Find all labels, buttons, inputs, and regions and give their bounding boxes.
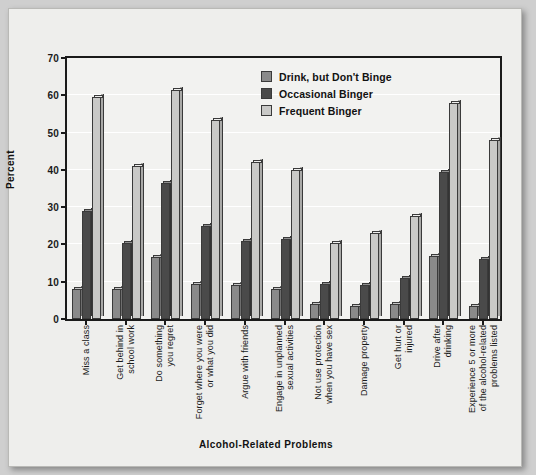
- y-axis: 010203040506070: [9, 9, 65, 329]
- bar-face: [112, 289, 121, 319]
- bar-side: [101, 94, 104, 316]
- legend-label: Occasional Binger: [279, 88, 373, 100]
- legend: Drink, but Don't BingeOccasional BingerF…: [257, 67, 396, 122]
- bar: [251, 162, 260, 319]
- bar-side: [458, 100, 461, 316]
- x-axis-category-text: Do something you regret: [154, 325, 176, 445]
- bar-face: [92, 97, 101, 319]
- legend-swatch: [261, 71, 272, 82]
- y-axis-tick-label: 30: [47, 202, 59, 213]
- bar-face: [410, 216, 419, 319]
- bar-face: [72, 289, 81, 319]
- y-axis-tick-label: 50: [47, 127, 59, 138]
- bar-side: [419, 213, 422, 316]
- bar-face: [241, 241, 250, 319]
- x-axis-category-text: Get hurt or injured: [393, 325, 415, 445]
- bar-face: [82, 211, 91, 319]
- bar: [231, 285, 240, 319]
- bar: [390, 304, 399, 319]
- bar: [489, 140, 498, 319]
- bar-face: [350, 306, 359, 319]
- bar: [330, 243, 339, 319]
- bar-face: [211, 120, 220, 319]
- y-axis-tick-label: 20: [47, 239, 59, 250]
- legend-label: Drink, but Don't Binge: [279, 71, 392, 83]
- x-axis-category-text: Forget where you were or what you did: [194, 325, 216, 445]
- bar: [201, 226, 210, 319]
- legend-item: Occasional Binger: [261, 86, 392, 101]
- bar-group: [429, 58, 461, 319]
- bar-group: [112, 58, 144, 319]
- bar: [410, 216, 419, 319]
- bar-side: [220, 117, 223, 316]
- bar: [360, 285, 369, 319]
- bar-face: [231, 285, 240, 319]
- bar-face: [479, 259, 488, 319]
- bar: [310, 304, 319, 319]
- x-axis-category-text: Argue with friends: [239, 325, 250, 445]
- bar: [400, 278, 409, 319]
- bar-face: [122, 243, 131, 319]
- bar: [291, 170, 300, 319]
- bar: [429, 256, 438, 319]
- bar-face: [310, 304, 319, 319]
- bar-chart-figure: 010203040506070 Percent Miss a classGet …: [9, 9, 523, 468]
- bar: [469, 306, 478, 319]
- bar-face: [251, 162, 260, 319]
- bar: [439, 172, 448, 319]
- bar-top: [293, 168, 302, 171]
- bar-top: [94, 95, 103, 98]
- y-axis-tick-label: 60: [47, 90, 59, 101]
- x-axis-category-text: Not use protection when you have sex: [313, 325, 335, 445]
- bar-face: [171, 90, 180, 319]
- bar: [479, 259, 488, 319]
- y-axis-tick-label: 70: [47, 53, 59, 64]
- bar-face: [400, 278, 409, 319]
- bar-face: [469, 306, 478, 319]
- x-axis-category-text: Miss a class: [80, 325, 91, 445]
- bar: [350, 306, 359, 319]
- bar: [132, 166, 141, 319]
- bar: [320, 284, 329, 319]
- bar: [92, 97, 101, 319]
- bar-side: [379, 230, 382, 316]
- bar-face: [489, 140, 498, 319]
- bar-face: [370, 233, 379, 319]
- bar: [72, 289, 81, 319]
- bar: [161, 183, 170, 319]
- bar-top: [213, 118, 222, 121]
- bar-top: [451, 101, 460, 104]
- bar-face: [449, 103, 458, 319]
- x-axis-category-text: Get behind in school work: [115, 325, 137, 445]
- bar-side: [141, 163, 144, 316]
- bar-face: [161, 183, 170, 319]
- bar-face: [429, 256, 438, 319]
- bar-face: [360, 285, 369, 319]
- bar-top: [134, 164, 143, 167]
- x-axis-category-text: Engage in unplanned sexual activities: [274, 325, 296, 445]
- bar-group: [469, 58, 501, 319]
- bar-face: [132, 166, 141, 319]
- y-axis-tick-label: 10: [47, 276, 59, 287]
- legend-swatch: [261, 88, 272, 99]
- bar-face: [439, 172, 448, 319]
- bar: [122, 243, 131, 319]
- bar-top: [372, 231, 381, 234]
- bar-face: [271, 289, 280, 319]
- bar-face: [291, 170, 300, 319]
- legend-item: Frequent Binger: [261, 103, 392, 118]
- bar: [82, 211, 91, 319]
- x-axis-category-label: Experience 5 or more of the alcohol-rela…: [482, 325, 536, 453]
- figure-card: 010203040506070 Percent Miss a classGet …: [8, 8, 522, 467]
- bar-group: [191, 58, 223, 319]
- bar-face: [281, 239, 290, 319]
- bar-face: [191, 284, 200, 319]
- bar-top: [491, 138, 500, 141]
- bar-group: [72, 58, 104, 319]
- bar-group: [151, 58, 183, 319]
- bar-face: [330, 243, 339, 319]
- bar-face: [320, 284, 329, 319]
- bar-top: [412, 214, 421, 217]
- bar: [211, 120, 220, 319]
- y-axis-tick-label: 0: [53, 314, 59, 325]
